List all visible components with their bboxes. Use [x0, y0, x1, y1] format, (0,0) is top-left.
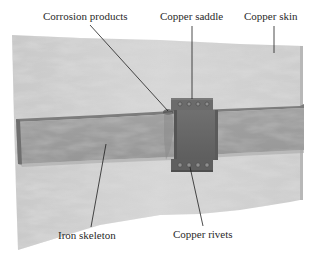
label-copper-saddle: Copper saddle [160, 11, 223, 22]
diagram-illustration [0, 0, 311, 260]
label-copper-skin: Copper skin [244, 11, 297, 22]
diagram-stage: Corrosion products Copper saddle Copper … [0, 0, 311, 260]
label-iron-skeleton: Iron skeleton [58, 230, 116, 241]
label-copper-rivets: Copper rivets [173, 229, 233, 240]
copper-saddle [171, 98, 218, 172]
label-corrosion-products: Corrosion products [43, 11, 128, 22]
